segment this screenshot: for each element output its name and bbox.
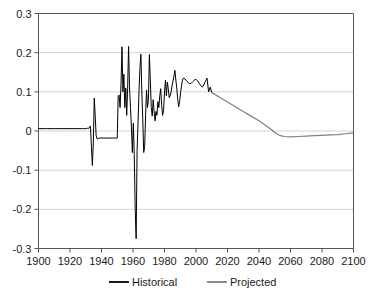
x-tick-label: 1960 — [121, 255, 145, 267]
line-chart: 1900192019401960198020002020204020602080… — [0, 0, 370, 300]
y-tick-label: 0 — [25, 125, 31, 137]
y-tick-label: 0.2 — [16, 47, 31, 59]
chart-container: 1900192019401960198020002020204020602080… — [0, 0, 370, 300]
x-axis-tick-labels: 1900192019401960198020002020204020602080… — [26, 255, 365, 267]
y-tick-label: -0.1 — [13, 164, 32, 176]
x-tick-label: 1900 — [26, 255, 50, 267]
x-tick-label: 2080 — [310, 255, 334, 267]
x-tick-label: 2020 — [215, 255, 239, 267]
y-tick-label: -0.2 — [13, 203, 32, 215]
y-tick-label: 0.3 — [16, 8, 31, 20]
legend-label-historical: Historical — [132, 276, 177, 288]
x-tick-label: 2060 — [278, 255, 302, 267]
x-tick-label: 2000 — [184, 255, 208, 267]
x-tick-label: 1980 — [152, 255, 176, 267]
x-tick-label: 2040 — [247, 255, 271, 267]
y-tick-label: 0.1 — [16, 86, 31, 98]
x-tick-label: 1920 — [58, 255, 82, 267]
y-tick-label: -0.3 — [13, 243, 32, 255]
legend-label-projected: Projected — [230, 276, 276, 288]
x-tick-label: 1940 — [89, 255, 113, 267]
x-tick-label: 2100 — [341, 255, 365, 267]
